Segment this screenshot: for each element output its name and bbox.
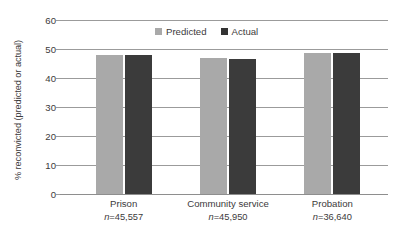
y-tick-label-50: 50	[32, 44, 56, 55]
bar-chart-figure: % reconvicted (predicted or actual) 0102…	[0, 0, 405, 243]
y-tick-label-20: 20	[32, 131, 56, 142]
legend-item-actual: Actual	[221, 26, 259, 37]
actual-swatch	[221, 28, 228, 35]
legend-item-predicted: Predicted	[155, 26, 207, 37]
y-tick-label-40: 40	[32, 73, 56, 84]
category-label-probation: Probationn=36,640	[272, 197, 392, 224]
bar-predicted-probation	[304, 53, 331, 194]
bar-actual-prison	[125, 55, 152, 194]
gridline-60	[60, 20, 388, 21]
y-tick-mark-50	[56, 49, 60, 50]
category-sample-size: n=45,557	[64, 211, 184, 225]
y-tick-label-10: 10	[32, 160, 56, 171]
y-tick-label-60: 60	[32, 15, 56, 26]
legend-label-actual: Actual	[232, 26, 259, 37]
category-label-prison: Prisonn=45,557	[64, 197, 184, 224]
gridline-0	[60, 194, 388, 195]
bar-actual-probation	[333, 53, 360, 194]
y-tick-label-0: 0	[32, 189, 56, 200]
legend-label-predicted: Predicted	[166, 26, 207, 37]
predicted-swatch	[155, 28, 162, 35]
bar-predicted-prison	[96, 55, 123, 194]
bar-predicted-community-service	[200, 58, 227, 194]
y-tick-label-30: 30	[32, 102, 56, 113]
category-name: Community service	[187, 198, 269, 209]
y-tick-mark-10	[56, 165, 60, 166]
category-name: Probation	[312, 198, 353, 209]
y-tick-mark-40	[56, 78, 60, 79]
y-axis-title: % reconvicted (predicted or actual)	[13, 15, 23, 205]
category-sample-size: n=45,950	[168, 211, 288, 225]
y-tick-mark-20	[56, 136, 60, 137]
category-label-community-service: Community servicen=45,950	[168, 197, 288, 224]
gridline-50	[60, 49, 388, 50]
y-tick-mark-60	[56, 20, 60, 21]
category-sample-size: n=36,640	[272, 211, 392, 225]
bar-actual-community-service	[229, 59, 256, 194]
x-axis-category-labels: Prisonn=45,557Community servicen=45,950P…	[60, 197, 388, 237]
y-axis-tick-labels: 0102030405060	[26, 20, 56, 194]
plot-area	[60, 20, 388, 194]
chart-legend: PredictedActual	[155, 26, 258, 37]
y-tick-mark-0	[56, 194, 60, 195]
category-name: Prison	[110, 198, 137, 209]
y-tick-mark-30	[56, 107, 60, 108]
